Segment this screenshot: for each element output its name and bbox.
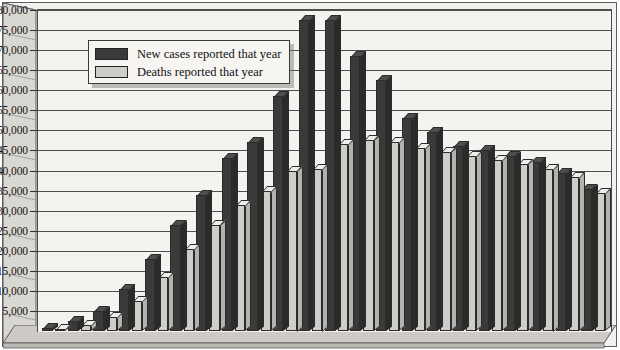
legend-swatch-deaths [95,66,128,78]
bar-side-3d [258,138,264,331]
legend-item-new-cases: New cases reported that year [95,45,283,62]
bar-side-3d [335,15,341,331]
bar-face [42,328,52,331]
y-axis-tick [30,251,37,252]
y-axis-label: 50,000 [0,124,28,136]
y-axis-tick [30,130,37,131]
bar-side-3d [528,160,534,331]
y-axis-tick [30,110,37,111]
bar-side-3d [412,114,418,331]
bar-side-3d [579,172,585,331]
bar-side-3d [129,284,135,331]
bar-side-3d [540,158,546,331]
bar-side-3d [463,142,469,331]
y-axis-tick [30,50,37,51]
y-axis-tick [30,70,37,71]
bar-new-cases [42,328,52,331]
bar-chart: 80,00075,00070,00065,00060,00055,00050,0… [0,0,620,350]
legend-item-deaths: Deaths reported that year [95,63,283,80]
y-axis-label: 60,000 [0,84,28,96]
y-axis-tick [30,150,37,151]
legend-swatch-new-cases [95,48,128,60]
y-axis-tick [30,30,37,31]
bar-side-3d [283,92,289,331]
y-axis-label: 15,000 [0,265,28,277]
bar-side-3d [309,15,315,331]
y-axis-label: 40,000 [0,165,28,177]
legend-label-new-cases: New cases reported that year [137,47,281,61]
y-axis-tick [30,211,37,212]
y-axis-label: 5,000 [3,305,28,317]
bar-side-3d [386,76,392,331]
bar-side-3d [271,186,277,331]
bar-side-3d [605,188,611,331]
bar-side-3d [348,140,354,331]
bar-side-3d [360,51,366,331]
bar-side-3d [502,156,508,331]
y-axis-tick [30,291,37,292]
bar-side-3d [425,144,431,331]
chart-legend: New cases reported that year Deaths repo… [88,40,290,84]
bar-side-3d [245,200,251,331]
y-axis-label: 30,000 [0,205,28,217]
bar-side-3d [553,164,559,331]
bar-side-3d [437,128,443,331]
bar-side-3d [155,254,161,331]
y-axis-label: 45,000 [0,144,28,156]
bar-side-3d [168,272,174,331]
bar-side-3d [220,220,226,331]
bar-side-3d [489,146,495,331]
y-axis-label: 80,000 [0,4,28,16]
y-axis-label: 20,000 [0,245,28,257]
bar-side-3d [476,152,482,331]
y-axis-tick [30,191,37,192]
y-axis-label: 35,000 [0,185,28,197]
bar-side-3d [399,138,405,331]
y-axis-label: 65,000 [0,64,28,76]
y-axis: 80,00075,00070,00065,00060,00055,00050,0… [0,0,37,350]
y-axis-tick [30,10,37,11]
y-axis-label: 25,000 [0,225,28,237]
bar-side-3d [515,152,521,331]
legend-label-deaths: Deaths reported that year [137,65,263,79]
y-axis-label: 55,000 [0,104,28,116]
bar-deaths [55,329,65,331]
y-axis-tick [30,171,37,172]
y-axis-tick [30,231,37,232]
y-axis-tick [30,311,37,312]
bar-side-3d [322,164,328,331]
bar-side-3d [232,154,238,331]
bar-side-3d [592,184,598,331]
bar-side-3d [194,244,200,331]
bar-face [55,329,65,331]
y-axis-label: 70,000 [0,44,28,56]
bar-side-3d [374,136,380,331]
y-axis-tick [30,90,37,91]
y-axis-label: 75,000 [0,24,28,36]
bar-side-3d [451,148,457,331]
bar-side-3d [566,168,572,331]
y-axis-tick [30,271,37,272]
bar-side-3d [206,190,212,331]
bar-side-3d [181,220,187,331]
bar-side-3d [297,166,303,331]
y-axis-label: 10,000 [0,285,28,297]
